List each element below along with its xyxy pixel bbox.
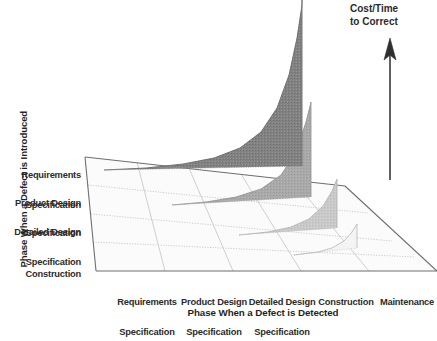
x-label-line1: Maintenance: [375, 297, 437, 307]
x-axis-label-maintenance: Maintenance: [375, 277, 437, 327]
x-axis-label-construction: Construction: [311, 277, 381, 327]
x-label-line2: Specification: [175, 327, 253, 337]
y-label-line1: Construction: [3, 269, 81, 279]
z-axis-title: Cost/Time to Correct: [350, 3, 434, 28]
y-axis-label-construction: Construction: [3, 249, 81, 299]
y-label-line1: Detailed Design: [3, 227, 81, 237]
x-label-line1: Detailed Design: [243, 297, 321, 307]
x-axis-title: Phase When a Defect is Detected: [118, 307, 408, 318]
cost-time-arrow: [384, 38, 396, 180]
y-axis-title: Phase When a Defect is Introduced: [18, 118, 29, 268]
x-label-line1: Construction: [311, 297, 381, 307]
x-label-line2: Specification: [243, 327, 321, 337]
base-plane: [85, 157, 437, 271]
surface-requirements: [104, 0, 302, 170]
x-label-line1: Product Design: [175, 297, 253, 307]
